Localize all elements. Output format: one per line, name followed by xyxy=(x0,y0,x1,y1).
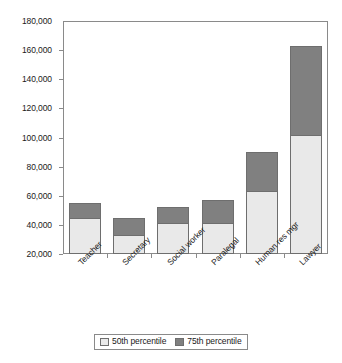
bar-segment-75th[interactable] xyxy=(157,207,189,223)
bar-segment-75th[interactable] xyxy=(113,218,145,235)
bar-slot xyxy=(240,21,284,254)
legend-entry-75th: 75th percentile xyxy=(175,337,241,346)
bar-slot xyxy=(63,21,107,254)
bar-segment-50th[interactable] xyxy=(290,135,322,254)
bar-slot xyxy=(196,21,240,254)
legend-swatch-50th-icon xyxy=(100,338,109,346)
y-axis: 180,000160,000140,000120,000100,00080,00… xyxy=(0,0,63,363)
x-tick-mark xyxy=(151,254,152,258)
y-tick-mark xyxy=(59,254,63,255)
x-tick-mark xyxy=(284,254,285,258)
bar-slot xyxy=(107,21,151,254)
bar-segment-75th[interactable] xyxy=(246,152,278,191)
x-tick-mark xyxy=(240,254,241,258)
y-tick-label: 120,000 xyxy=(22,104,52,113)
x-tick-mark xyxy=(107,254,108,258)
y-tick-label: 180,000 xyxy=(22,17,52,26)
x-tick-mark xyxy=(196,254,197,258)
chart-legend: 50th percentile 75th percentile xyxy=(94,334,248,350)
bar-slot xyxy=(284,21,328,254)
y-tick-label: 160,000 xyxy=(22,46,52,55)
y-tick-label: 140,000 xyxy=(22,75,52,84)
legend-label-50th: 50th percentile xyxy=(112,337,166,346)
y-tick-label: 60,000 xyxy=(27,191,52,200)
bar-slot xyxy=(151,21,195,254)
bar-segment-75th[interactable] xyxy=(290,46,322,135)
y-tick-label: 100,000 xyxy=(22,133,52,142)
stacked-bar-chart: 180,000160,000140,000120,000100,00080,00… xyxy=(0,0,342,363)
y-tick-label: 80,000 xyxy=(27,162,52,171)
y-tick-label: 20,000 xyxy=(27,250,52,259)
bar-segment-75th[interactable] xyxy=(202,200,234,223)
y-tick-label: 40,000 xyxy=(27,220,52,229)
bars-layer xyxy=(63,21,328,254)
legend-swatch-75th-icon xyxy=(175,338,184,346)
legend-entry-50th: 50th percentile xyxy=(100,337,166,346)
legend-label-75th: 75th percentile xyxy=(187,337,241,346)
bar-segment-75th[interactable] xyxy=(69,203,101,218)
